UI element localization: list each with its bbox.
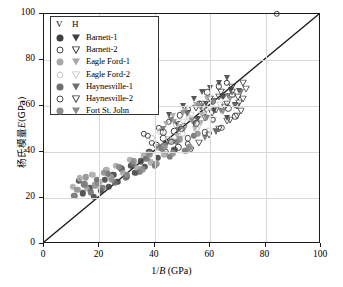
- legend-item-label: Fort St. John: [86, 105, 129, 115]
- y-axis-tick: [39, 59, 43, 60]
- legend-item-eagleford1[interactable]: Eagle Ford-1: [51, 55, 158, 67]
- gridline-horizontal: [44, 198, 319, 199]
- y-axis-title-prefix: 杨氏模量: [16, 128, 27, 168]
- data-point: [202, 135, 208, 141]
- legend-item-barnett1[interactable]: Barnett-1: [51, 31, 158, 43]
- gridline-vertical: [266, 14, 267, 242]
- data-point: [203, 115, 209, 121]
- x-axis-tick-label: 40: [139, 249, 169, 259]
- legend-entries: Barnett-1Barnett-2Eagle Ford-1Eagle Ford…: [51, 31, 158, 116]
- legend-item-label: Barnett-1: [86, 32, 118, 42]
- legend-marker-vertical-icon: [56, 95, 64, 103]
- data-point: [220, 109, 226, 115]
- legend-marker-vertical-icon: [56, 71, 64, 79]
- x-axis-tick-label: 20: [83, 249, 113, 259]
- x-axis-title: 1/B (GPa): [0, 265, 343, 276]
- chart-legend: V H Barnett-1Barnett-2Eagle Ford-1Eagle …: [50, 16, 159, 115]
- y-axis-title-symbol: E: [17, 122, 27, 128]
- legend-marker-horizontal-icon: [71, 95, 80, 103]
- data-point: [240, 89, 248, 96]
- x-axis-tick-label: 100: [305, 249, 335, 259]
- data-point: [227, 96, 233, 102]
- legend-item-barnett2[interactable]: Barnett-2: [51, 43, 158, 55]
- legend-item-haynesville1[interactable]: Haynesville-1: [51, 80, 158, 92]
- x-axis-tick-label: 80: [250, 249, 280, 259]
- legend-header-vertical: V: [56, 19, 63, 29]
- x-axis-tick: [320, 243, 321, 247]
- legend-marker-vertical-icon: [56, 46, 64, 54]
- y-axis-tick-label: 0: [9, 237, 35, 247]
- y-axis-tick-label: 100: [9, 7, 35, 17]
- y-axis-tick: [39, 13, 43, 14]
- x-axis-tick: [98, 243, 99, 247]
- legend-marker-horizontal-icon: [71, 107, 80, 115]
- x-axis-tick: [265, 243, 266, 247]
- legend-marker-horizontal-icon: [71, 83, 80, 91]
- y-axis-tick: [39, 151, 43, 152]
- x-axis-tick: [209, 243, 210, 247]
- x-axis-tick: [43, 243, 44, 247]
- x-axis-title-suffix: (GPa): [165, 265, 191, 276]
- x-axis-tick-label: 60: [194, 249, 224, 259]
- x-axis-tick: [154, 243, 155, 247]
- legend-marker-horizontal-icon: [71, 34, 80, 42]
- legend-item-label: Haynesville-2: [86, 93, 133, 103]
- data-point: [215, 86, 223, 93]
- y-axis-title-suffix: (GPa): [16, 96, 27, 122]
- data-point: [171, 119, 177, 125]
- legend-item-label: Haynesville-1: [86, 81, 133, 91]
- legend-marker-horizontal-icon: [71, 46, 80, 54]
- data-point: [180, 110, 186, 116]
- legend-item-label: Barnett-2: [86, 44, 118, 54]
- y-axis-title: 杨氏模量E(GPa): [14, 96, 28, 168]
- x-axis-tick-label: 0: [28, 249, 58, 259]
- y-axis-tick-label: 20: [9, 191, 35, 201]
- gridline-vertical: [210, 14, 211, 242]
- legend-marker-horizontal-icon: [71, 58, 80, 66]
- legend-item-label: Eagle Ford-2: [86, 69, 130, 79]
- y-axis-tick: [39, 105, 43, 106]
- legend-marker-vertical-icon: [56, 83, 64, 91]
- legend-marker-vertical-icon: [56, 107, 64, 115]
- x-axis-title-prefix: 1/: [151, 265, 159, 276]
- y-axis-tick: [39, 243, 43, 244]
- y-axis-tick: [39, 197, 43, 198]
- legend-marker-horizontal-icon: [71, 71, 80, 79]
- legend-marker-vertical-icon: [56, 34, 64, 42]
- legend-item-label: Eagle Ford-1: [86, 56, 130, 66]
- legend-header-horizontal: H: [72, 19, 79, 29]
- gridline-horizontal: [44, 152, 319, 153]
- legend-item-haynesville2[interactable]: Haynesville-2: [51, 92, 158, 104]
- data-point: [198, 93, 206, 100]
- scatter-chart-figure: 020406080100020406080100 1/B (GPa) 杨氏模量E…: [0, 0, 343, 287]
- data-point: [229, 82, 237, 89]
- data-point: [242, 78, 250, 85]
- data-point: [189, 118, 195, 124]
- legend-item-eagleford2[interactable]: Eagle Ford-2: [51, 68, 158, 80]
- legend-item-fortstjohn[interactable]: Fort St. John: [51, 104, 158, 116]
- legend-marker-vertical-icon: [56, 58, 64, 66]
- y-axis-tick-label: 80: [9, 53, 35, 63]
- legend-header: V H: [51, 19, 158, 31]
